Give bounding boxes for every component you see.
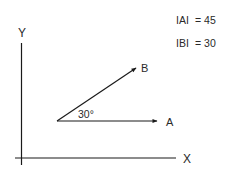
magnitude-b-label: IBI	[176, 37, 189, 49]
vector-diagram: Y X A B 30° IAI = 45 IBI = 30	[0, 0, 231, 172]
magnitude-b-value: = 30	[195, 37, 216, 49]
y-axis-label: Y	[18, 26, 26, 40]
vector-a-label: A	[166, 116, 174, 128]
magnitude-a-label: IAI	[176, 14, 189, 26]
vector-b-arrow	[57, 68, 136, 121]
vector-b-label: B	[141, 62, 148, 74]
angle-label: 30°	[78, 108, 94, 120]
x-axis-label: X	[183, 152, 191, 166]
magnitude-a-value: = 45	[195, 14, 216, 26]
